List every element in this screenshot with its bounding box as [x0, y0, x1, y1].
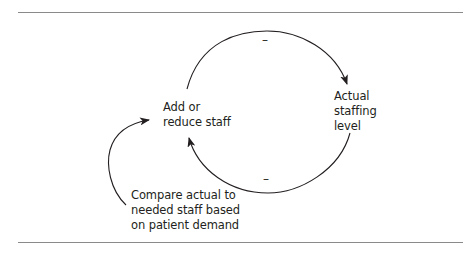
bottom-rule: [18, 242, 463, 243]
bottom-minus-sign: –: [263, 173, 269, 185]
actual-staffing-level-label: Actual staffing level: [334, 89, 377, 134]
add-or-reduce-staff-label: Add or reduce staff: [163, 100, 231, 130]
top-minus-sign: –: [262, 34, 268, 46]
compare-staff-label: Compare actual to needed staff based on …: [131, 188, 240, 233]
bottom-arc-arrow: [189, 133, 350, 193]
